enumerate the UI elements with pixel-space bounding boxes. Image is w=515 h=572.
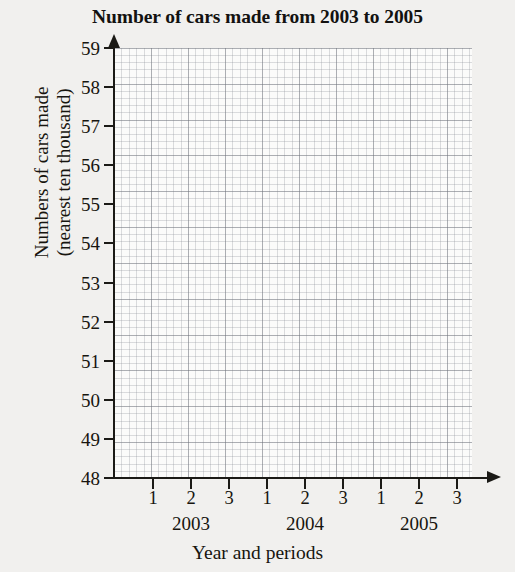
y-axis-tick-label: 49 [0, 430, 100, 449]
x-axis-period-label: 3 [437, 489, 477, 508]
y-axis-tick [104, 399, 114, 401]
x-axis-year-label: 2004 [260, 514, 350, 533]
y-axis-title: Numbers of cars made (nearest ten thousa… [31, 17, 76, 327]
y-axis-tick [104, 477, 114, 479]
y-axis-title-line-2: (nearest ten thousand) [53, 17, 75, 327]
y-axis-title-line-1: Numbers of cars made [31, 17, 53, 327]
x-axis-period-label: 2 [285, 489, 325, 508]
x-axis-period-label: 2 [399, 489, 439, 508]
x-axis-year-label: 2003 [146, 514, 236, 533]
chart-container: Number of cars made from 2003 to 2005 59… [0, 0, 515, 572]
x-axis-arrow-icon [487, 471, 501, 483]
y-axis-tick [104, 125, 114, 127]
y-axis-tick [104, 282, 114, 284]
y-axis-tick [104, 360, 114, 362]
x-axis-year-label: 2005 [374, 514, 464, 533]
y-axis-arrow-icon [108, 34, 120, 48]
x-axis-period-label: 2 [171, 489, 211, 508]
x-axis-period-label: 3 [323, 489, 363, 508]
y-axis-tick [104, 242, 114, 244]
x-axis-period-label: 1 [133, 489, 173, 508]
y-axis-tick [104, 438, 114, 440]
y-axis-tick-label: 50 [0, 391, 100, 410]
x-axis-period-label: 3 [209, 489, 249, 508]
y-axis-line [113, 46, 115, 479]
y-axis-tick [104, 164, 114, 166]
x-axis-line [104, 477, 489, 479]
x-axis-period-label: 1 [361, 489, 401, 508]
y-axis-tick-label: 48 [0, 469, 100, 488]
y-axis-tick [104, 321, 114, 323]
y-axis-tick [104, 203, 114, 205]
plot-grid-area [114, 48, 472, 478]
y-axis-tick [104, 86, 114, 88]
x-axis-period-label: 1 [247, 489, 287, 508]
y-axis-tick [104, 47, 114, 49]
y-axis-tick-label: 51 [0, 352, 100, 371]
x-axis-title: Year and periods [0, 542, 515, 564]
